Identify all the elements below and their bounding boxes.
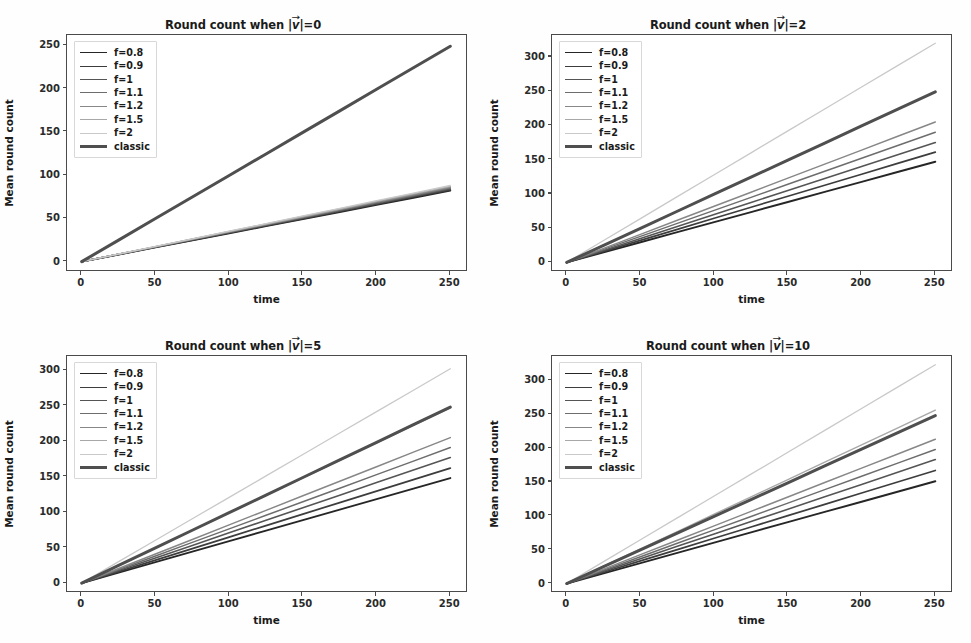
x-axis-label: time [66,614,467,626]
legend-label: f=1 [114,396,133,406]
legend-item[interactable]: f=2 [565,126,635,139]
x-tick-label: 200 [850,598,871,609]
x-tick-mark [860,271,861,275]
x-tick-label: 100 [218,277,239,288]
legend-line-swatch [80,373,107,374]
y-axis-label: Mean round count [3,34,15,271]
legend-item[interactable]: classic [80,461,150,474]
legend-item[interactable]: f=1.2 [565,100,635,113]
legend-label: f=1.2 [599,422,628,432]
legend-item[interactable]: f=1.5 [80,113,150,126]
legend-item[interactable]: f=1.2 [80,100,150,113]
x-tick-mark [713,271,714,275]
x-tick-label: 100 [218,598,239,609]
legend-item[interactable]: f=2 [80,447,150,460]
line-series-f-0-9 [567,152,936,262]
legend-item[interactable]: f=1.5 [565,434,635,447]
legend-item[interactable]: f=0.8 [80,46,150,59]
y-tick-mark [63,404,67,405]
y-tick-mark [63,475,67,476]
legend-label: f=0.9 [599,61,628,71]
y-tick-mark [63,369,67,370]
legend-line-swatch [565,427,592,428]
x-tick-label: 150 [776,277,797,288]
legend-item[interactable]: f=1.2 [565,421,635,434]
y-tick-label: 0 [505,256,545,267]
y-tick-label: 100 [505,509,545,520]
legend-item[interactable]: f=1.5 [80,434,150,447]
legend-line-swatch [80,440,107,441]
vector-v-symbol: v→ [777,18,784,32]
x-tick-label: 250 [439,277,460,288]
y-tick-mark [548,227,552,228]
legend-item[interactable]: f=1 [565,73,635,86]
y-tick-label: 0 [505,577,545,588]
subplot-3: Round count when |v→|=5f=0.8f=0.9f=1f=1.… [0,321,486,643]
x-tick-label: 50 [147,277,161,288]
y-axis-label: Mean round count [3,355,15,592]
title-suffix: |=5 [300,339,322,353]
x-tick-label: 0 [562,277,569,288]
y-tick-mark [63,546,67,547]
figure-canvas: Round count when |v→|=0f=0.8f=0.9f=1f=1.… [0,0,971,643]
legend-label: f=0.9 [114,382,143,392]
legend-line-swatch [80,119,107,120]
legend-item[interactable]: f=0.9 [565,380,635,393]
legend-label: f=1.1 [599,88,628,98]
legend-label: f=0.9 [114,61,143,71]
x-tick-mark [154,271,155,275]
legend-line-swatch [80,427,107,428]
legend-label: f=2 [114,449,133,459]
y-tick-label: 100 [20,169,60,180]
legend-item[interactable]: f=0.9 [565,59,635,72]
legend-item[interactable]: f=2 [80,126,150,139]
legend-line-swatch [565,92,592,93]
y-tick-label: 300 [505,50,545,61]
legend-line-swatch [565,66,592,67]
y-tick-mark [63,130,67,131]
legend-label: classic [114,142,150,152]
title-prefix: Round count when | [165,339,292,353]
legend-item[interactable]: f=0.8 [565,46,635,59]
legend-item[interactable]: classic [565,461,635,474]
legend: f=0.8f=0.9f=1f=1.1f=1.2f=1.5f=2classic [559,362,642,479]
x-tick-mark [565,592,566,596]
y-tick-label: 0 [20,577,60,588]
legend-item[interactable]: f=0.9 [80,380,150,393]
y-tick-mark [548,548,552,549]
x-tick-label: 50 [632,277,646,288]
legend-item[interactable]: f=1.5 [565,113,635,126]
x-tick-label: 0 [77,598,84,609]
legend-line-swatch [80,466,107,469]
y-tick-label: 200 [20,82,60,93]
y-tick-label: 250 [505,85,545,96]
y-tick-label: 300 [20,364,60,375]
vector-arrow-icon: → [290,334,301,343]
legend-item[interactable]: f=1.1 [565,407,635,420]
plot-area: f=0.8f=0.9f=1f=1.1f=1.2f=1.5f=2classic [66,34,467,271]
legend-item[interactable]: f=1 [80,394,150,407]
legend-item[interactable]: f=0.8 [565,367,635,380]
legend-item[interactable]: f=2 [565,447,635,460]
y-tick-mark [548,447,552,448]
y-tick-mark [548,514,552,515]
x-tick-mark [301,271,302,275]
subplot-title: Round count when |v→|=2 [485,18,971,32]
legend-item[interactable]: classic [80,140,150,153]
legend-label: f=1.1 [599,409,628,419]
x-tick-label: 100 [703,277,724,288]
x-axis-label: time [551,614,952,626]
legend-label: f=0.8 [599,369,628,379]
y-tick-mark [63,174,67,175]
legend-item[interactable]: f=0.8 [80,367,150,380]
legend-item[interactable]: f=1.1 [80,86,150,99]
y-tick-mark [63,511,67,512]
legend-item[interactable]: f=0.9 [80,59,150,72]
legend-item[interactable]: f=1 [565,394,635,407]
legend-item[interactable]: classic [565,140,635,153]
legend-item[interactable]: f=1 [80,73,150,86]
legend-item[interactable]: f=1.2 [80,421,150,434]
legend-item[interactable]: f=1.1 [80,407,150,420]
legend-item[interactable]: f=1.1 [565,86,635,99]
legend-line-swatch [565,106,592,107]
